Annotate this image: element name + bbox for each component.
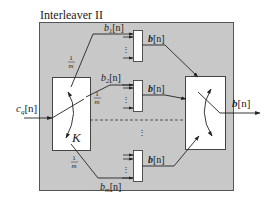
branches-ellipsis: ⋮ [138,128,146,137]
branch-2-label: b2[n] [101,72,121,84]
branch-m-out-label: b[n] [148,154,165,165]
branch-2-out-label: b[n] [148,83,165,94]
branch-1-rate-den: m [68,62,73,70]
branch-1-rate-num: 1 [69,54,73,62]
branch-m-ellipsis: ⋮ [122,165,130,174]
left-switch-label: K [71,130,82,145]
branch-1-out-label: b[n] [148,33,165,44]
output-label: b[n] [232,97,250,109]
diagram-title: Interleaver II [40,8,103,22]
branch-2-rate-num: 1 [95,90,99,98]
interleaver-diagram: Interleaver II K cq[n] b[n] b1[n] 1 m ⋮ [0,0,274,199]
branch-1-label: b1[n] [104,22,124,34]
branch-m-buffer-block [134,151,143,182]
input-label: cq[n] [16,102,37,116]
branch-m-rate-num: 1 [72,154,76,162]
branch-1-buffer-block [134,31,143,62]
branch-m-label: bm[n] [100,181,121,193]
branch-2-ellipsis: ⋮ [122,95,130,104]
branch-m-rate-den: m [71,162,76,170]
branch-2-rate-den: m [94,98,99,106]
branch-1-ellipsis: ⋮ [122,45,130,54]
branch-2-buffer-block [134,81,143,112]
